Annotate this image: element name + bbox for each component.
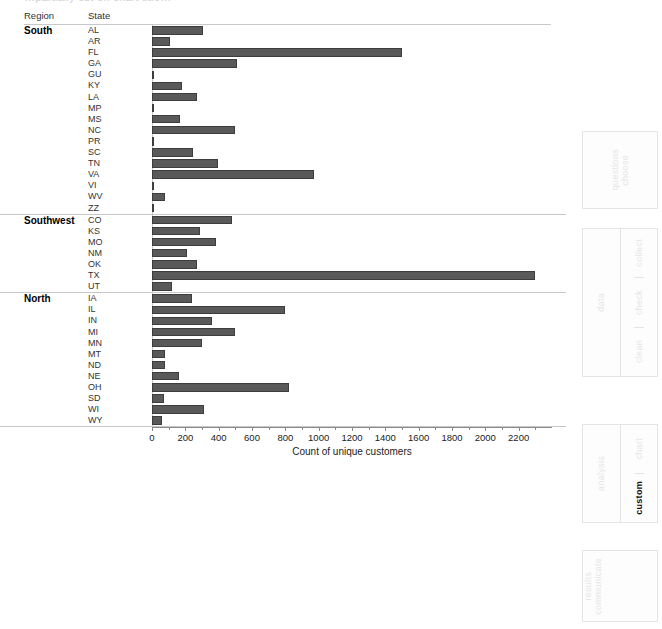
bar[interactable] xyxy=(152,204,153,212)
bar[interactable] xyxy=(152,394,164,402)
bar[interactable] xyxy=(152,294,192,302)
state-label: AR xyxy=(88,36,101,47)
process-box-data[interactable]: data collect check clean xyxy=(582,228,658,377)
bar[interactable] xyxy=(152,416,162,424)
bar-fill xyxy=(152,126,235,134)
bar-fill xyxy=(152,170,314,178)
chart-row: ZZ xyxy=(0,203,566,214)
bar[interactable] xyxy=(152,26,203,34)
region-group: SouthwestCOKSMONMOKTXUT xyxy=(0,215,566,294)
analysis-main-cell: analysis xyxy=(583,425,620,522)
process-box-communicate-results[interactable]: results communicate xyxy=(582,550,658,622)
x-axis-minor-tick xyxy=(269,427,270,430)
data-step-check[interactable]: check xyxy=(634,278,644,327)
bar[interactable] xyxy=(152,361,165,369)
region-group: NorthIAILINMIMNMTNDNEOHSDWIWY xyxy=(0,293,566,427)
data-step-clean-label: clean xyxy=(634,340,644,363)
chart-row: IA xyxy=(0,293,566,304)
chart-row: TN xyxy=(0,158,566,169)
chart-row: WV xyxy=(0,191,566,202)
bar[interactable] xyxy=(152,350,165,358)
state-label: SD xyxy=(88,393,101,404)
bar[interactable] xyxy=(152,137,154,145)
bar[interactable] xyxy=(152,405,204,413)
x-axis: Count of unique customers 02004006008001… xyxy=(0,427,566,461)
chart-row: AL xyxy=(0,25,566,36)
x-axis-tick-label: 1200 xyxy=(341,432,362,443)
chart-row: MO xyxy=(0,237,566,248)
bar-fill xyxy=(152,282,172,290)
state-label: WV xyxy=(88,191,103,202)
x-axis-tick-label: 1400 xyxy=(375,432,396,443)
bar[interactable] xyxy=(152,126,235,134)
chart-row: NC xyxy=(0,125,566,136)
x-axis-tick xyxy=(352,427,353,431)
state-label: ZZ xyxy=(88,203,99,214)
bar[interactable] xyxy=(152,59,237,67)
bar-fill xyxy=(152,271,535,279)
bar[interactable] xyxy=(152,48,402,56)
bar[interactable] xyxy=(152,260,197,268)
chart-row: CO xyxy=(0,215,566,226)
bar[interactable] xyxy=(152,104,153,112)
chart-header-row: Region State xyxy=(0,10,566,24)
data-step-clean[interactable]: clean xyxy=(634,328,644,376)
bar-chart: Region State SouthALARFLGAGUKYLAMPMSNCPR… xyxy=(0,10,566,430)
bar-fill xyxy=(152,394,164,402)
analysis-step-custom[interactable]: custom xyxy=(634,474,644,522)
process-box-choose-questions[interactable]: questions choose xyxy=(582,131,658,209)
bar[interactable] xyxy=(152,193,165,201)
state-label: OH xyxy=(88,382,102,393)
bar-fill xyxy=(152,405,204,413)
bar[interactable] xyxy=(152,317,212,325)
data-step-collect[interactable]: collect xyxy=(634,229,644,278)
chart-row: LA xyxy=(0,92,566,103)
state-label: IN xyxy=(88,315,97,326)
bar[interactable] xyxy=(152,372,179,380)
state-label: NC xyxy=(88,125,101,136)
chart-row: MT xyxy=(0,349,566,360)
x-axis-tick-label: 1000 xyxy=(308,432,329,443)
bar[interactable] xyxy=(152,159,218,167)
x-axis-tick xyxy=(385,427,386,431)
bar[interactable] xyxy=(152,82,182,90)
bar[interactable] xyxy=(152,216,232,224)
bar[interactable] xyxy=(152,227,200,235)
x-axis-label: Count of unique customers xyxy=(152,446,552,457)
bar-fill xyxy=(152,216,232,224)
bar[interactable] xyxy=(152,148,193,156)
bar[interactable] xyxy=(152,182,153,190)
bar[interactable] xyxy=(152,37,170,45)
x-axis-minor-tick xyxy=(502,427,503,430)
state-label: NE xyxy=(88,371,101,382)
chart-row: OH xyxy=(0,382,566,393)
bar[interactable] xyxy=(152,71,153,79)
x-axis-minor-tick xyxy=(202,427,203,430)
bar[interactable] xyxy=(152,249,187,257)
bar-fill xyxy=(152,383,289,391)
bar[interactable] xyxy=(152,282,172,290)
bar[interactable] xyxy=(152,170,314,178)
analysis-step-chart[interactable]: chart xyxy=(634,425,644,474)
bar[interactable] xyxy=(152,383,289,391)
bar[interactable] xyxy=(152,271,535,279)
bar[interactable] xyxy=(152,339,202,347)
choose-questions-content: questions choose xyxy=(583,132,657,208)
state-label: MP xyxy=(88,103,102,114)
bar-fill xyxy=(152,372,179,380)
x-axis-tick xyxy=(452,427,453,431)
bar[interactable] xyxy=(152,306,285,314)
bar[interactable] xyxy=(152,115,180,123)
bar-fill xyxy=(152,317,212,325)
data-steps: collect check clean xyxy=(620,229,657,376)
process-box-analysis[interactable]: analysis chart custom xyxy=(582,424,658,523)
chart-row: VA xyxy=(0,169,566,180)
x-axis-tick-label: 200 xyxy=(177,432,193,443)
bar[interactable] xyxy=(152,238,216,246)
cut-off-chart-title: …partially cut-off chart title… xyxy=(0,0,662,9)
bar[interactable] xyxy=(152,328,235,336)
data-label: data xyxy=(596,293,606,312)
x-axis-tick-label: 1600 xyxy=(408,432,429,443)
column-header-state: State xyxy=(88,10,110,21)
bar[interactable] xyxy=(152,93,197,101)
